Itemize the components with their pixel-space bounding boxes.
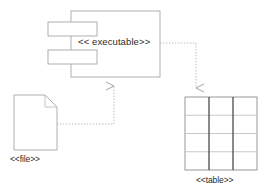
executable-tab-upper	[48, 22, 97, 36]
connector-file-to-executable[interactable]	[57, 86, 114, 124]
executable-tab-lower	[48, 50, 97, 64]
table-stereotype-label: <<table>>	[196, 176, 233, 185]
connector-executable-to-table[interactable]	[160, 43, 196, 88]
file-body	[14, 95, 57, 150]
diagram-canvas: << executable>> <<file>> <<table>>	[0, 0, 264, 192]
node-file[interactable]	[14, 95, 57, 150]
file-stereotype-label: <<file>>	[10, 155, 40, 164]
connector-executable-to-table-line	[160, 43, 196, 88]
executable-stereotype-label: << executable>>	[78, 37, 150, 47]
connector-file-to-executable-line	[57, 86, 114, 124]
node-table[interactable]	[185, 97, 257, 170]
